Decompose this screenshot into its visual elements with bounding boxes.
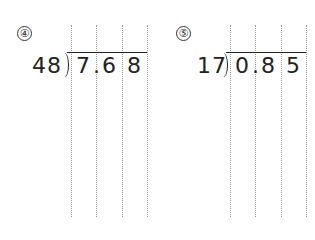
- divisor: 48: [32, 55, 62, 77]
- problem-number: ④: [17, 26, 32, 41]
- dividend-digit: 8: [124, 55, 144, 77]
- grid-line: [122, 25, 123, 217]
- dividend-digit: 8: [258, 55, 278, 77]
- dividend-digit: 0: [232, 55, 252, 77]
- dividend-digit: 7: [73, 55, 93, 77]
- division-bracket: [219, 53, 228, 77]
- division-bracket: [60, 53, 69, 77]
- dividend-digit: 5: [283, 55, 303, 77]
- problem-number: ⑤: [176, 26, 191, 41]
- grid-line: [147, 25, 148, 217]
- grid-line: [306, 25, 307, 217]
- grid-line: [281, 25, 282, 217]
- grid-line: [230, 25, 231, 217]
- dividend-digit: 6: [99, 55, 119, 77]
- grid-line: [71, 25, 72, 217]
